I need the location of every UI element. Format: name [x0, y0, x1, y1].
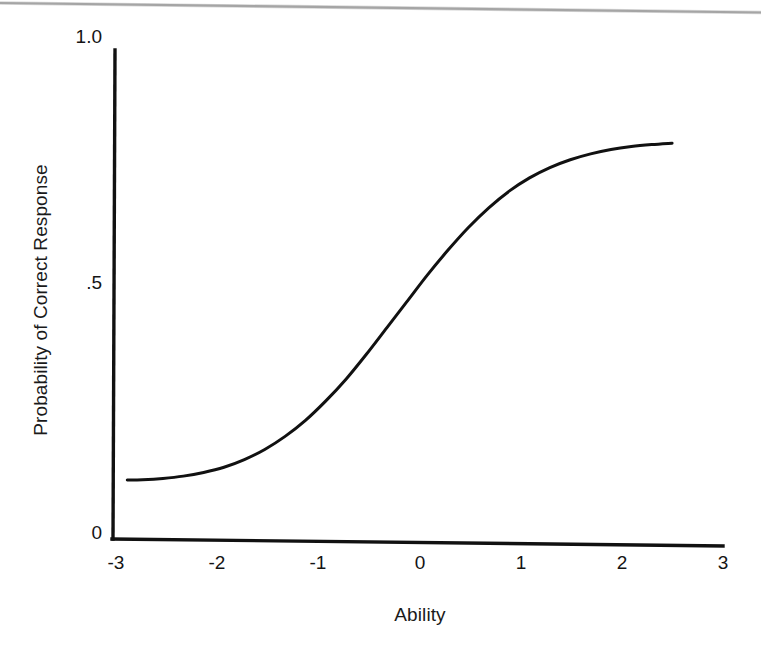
y-axis-line — [113, 50, 115, 539]
x-tick-label-neg2: -2 — [197, 552, 237, 574]
x-tick-label-1: 1 — [501, 552, 541, 574]
x-axis-line — [112, 539, 723, 546]
y-axis-title: Probability of Correct Response — [30, 90, 52, 510]
x-tick-label-0: 0 — [400, 552, 440, 574]
y-tick-label-1.0: 1.0 — [46, 26, 102, 48]
figure-page: 1.0 .5 0 -3 -2 -1 0 1 2 3 Probability of… — [0, 0, 761, 664]
x-tick-label-2: 2 — [602, 552, 642, 574]
x-tick-label-neg1: -1 — [298, 552, 338, 574]
x-tick-label-3: 3 — [703, 552, 743, 574]
icc-curve — [127, 143, 672, 480]
x-axis-title: Ability — [340, 604, 500, 626]
x-tick-label-neg3: -3 — [96, 552, 136, 574]
y-tick-label-0.5: .5 — [46, 272, 102, 294]
y-tick-label-0: 0 — [46, 522, 102, 544]
